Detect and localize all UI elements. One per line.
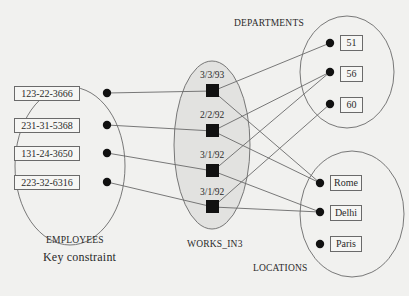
- location-name-box: Paris: [330, 236, 362, 252]
- department-node-56: [326, 68, 334, 76]
- relationship-node-4: [206, 200, 219, 213]
- employee-node-1: [103, 89, 111, 97]
- since-label: 2/2/92: [200, 110, 224, 120]
- location-name-box: Delhi: [330, 205, 362, 221]
- employee-node-2: [103, 121, 111, 129]
- relationship-node-3: [206, 164, 219, 177]
- employee-node-3: [103, 149, 111, 157]
- departments-label: DEPARTMENTS: [234, 18, 304, 28]
- department-node-51: [326, 39, 334, 47]
- department-id-box: 51: [340, 35, 363, 51]
- employee-ssn-box: 231-31-5368: [14, 118, 80, 133]
- employees-set-ellipse: [15, 87, 125, 245]
- er-instance-diagram: 123-22-3666 231-31-5368 131-24-3650 223-…: [0, 0, 409, 296]
- location-node-paris: [316, 240, 324, 248]
- employee-ssn-box: 123-22-3666: [14, 86, 80, 101]
- since-label: 3/1/92: [200, 150, 224, 160]
- employees-label: EMPLOYEES: [46, 235, 104, 245]
- caption-key-constraint: Key constraint: [43, 250, 116, 265]
- edge-rel1-dept51: [213, 43, 330, 91]
- locations-label: LOCATIONS: [253, 263, 308, 273]
- since-label: 3/3/93: [200, 70, 224, 80]
- department-id-box: 56: [340, 66, 363, 82]
- works-in3-label: WORKS_IN3: [187, 239, 243, 249]
- location-node-delhi: [316, 208, 324, 216]
- location-node-rome: [316, 179, 324, 187]
- location-name-box: Rome: [330, 175, 362, 191]
- relationship-node-2: [206, 124, 219, 137]
- department-node-60: [326, 100, 334, 108]
- relationship-node-1: [206, 84, 219, 97]
- employee-ssn-box: 131-24-3650: [14, 146, 80, 161]
- since-label: 3/1/92: [200, 187, 224, 197]
- department-id-box: 60: [340, 97, 363, 113]
- employee-node-4: [103, 178, 111, 186]
- employee-ssn-box: 223-32-6316: [14, 175, 80, 190]
